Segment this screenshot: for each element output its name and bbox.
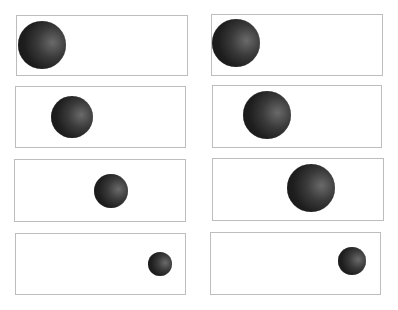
figure-canvas [0, 0, 398, 310]
panel-left-1 [16, 15, 188, 76]
sphere-icon [51, 96, 93, 138]
sphere-icon [287, 164, 335, 212]
sphere-icon [212, 19, 260, 67]
panel-right-3 [212, 158, 384, 221]
panel-right-4 [210, 232, 381, 295]
panel-left-3 [14, 159, 186, 222]
sphere-icon [94, 174, 128, 208]
sphere-icon [338, 247, 366, 275]
panel-right-2 [212, 85, 382, 148]
panel-left-4 [15, 233, 186, 295]
panel-right-1 [211, 14, 383, 76]
panel-left-2 [15, 86, 186, 148]
sphere-icon [243, 91, 291, 139]
sphere-icon [18, 21, 66, 69]
sphere-icon [148, 252, 172, 276]
